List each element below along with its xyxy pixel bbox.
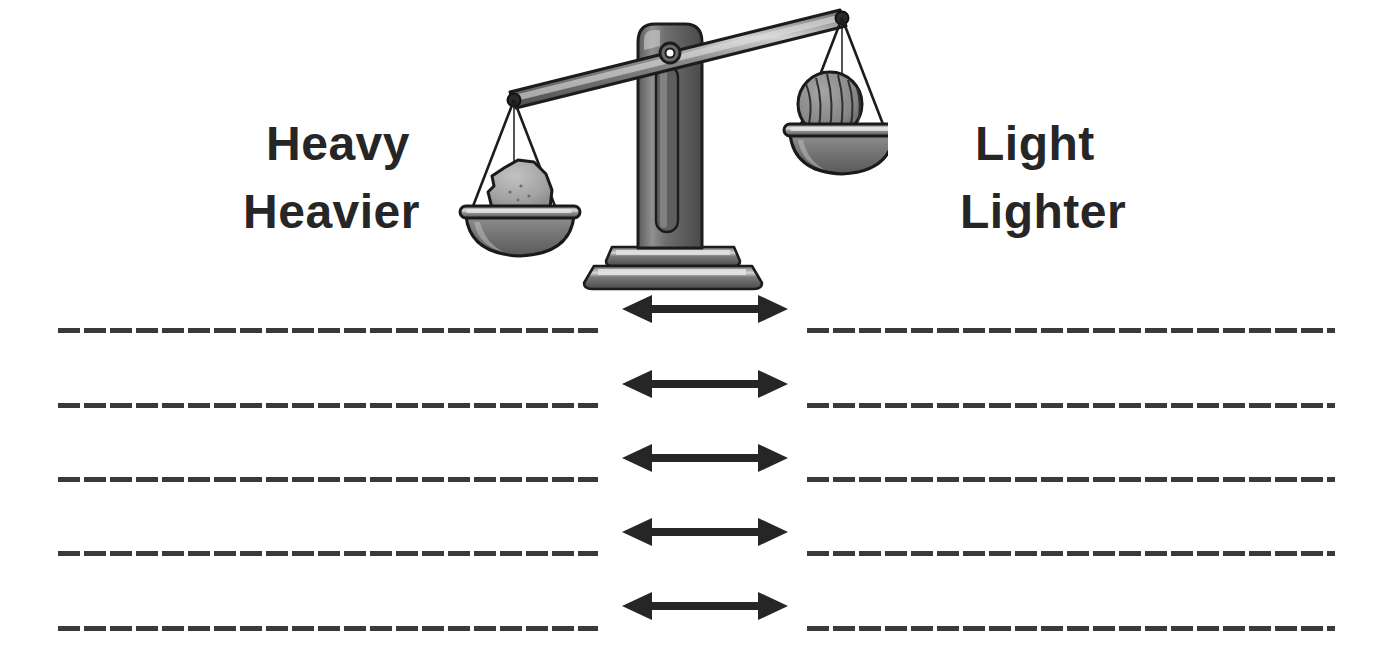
label-heavier: Heavier bbox=[150, 188, 420, 236]
answer-line-right-5[interactable] bbox=[807, 626, 1335, 631]
connector-arrow-3 bbox=[622, 443, 788, 473]
scale-left-pan bbox=[460, 100, 580, 256]
answer-line-left-4[interactable] bbox=[58, 551, 598, 556]
balance-scale-illustration bbox=[448, 0, 888, 292]
connector-arrow-5 bbox=[622, 591, 788, 621]
answer-line-right-2[interactable] bbox=[807, 403, 1335, 408]
scale-right-pan bbox=[784, 18, 888, 174]
label-light: Light bbox=[975, 120, 1235, 168]
scale-pivot-icon bbox=[660, 43, 680, 63]
scale-base-icon bbox=[584, 247, 762, 289]
connector-arrow-1 bbox=[622, 294, 788, 324]
label-lighter: Lighter bbox=[960, 188, 1240, 236]
answer-line-right-3[interactable] bbox=[807, 477, 1335, 482]
answer-line-left-2[interactable] bbox=[58, 403, 598, 408]
answer-line-right-1[interactable] bbox=[807, 328, 1335, 333]
answer-line-left-1[interactable] bbox=[58, 328, 598, 333]
connector-arrow-2 bbox=[622, 369, 788, 399]
answer-line-left-3[interactable] bbox=[58, 477, 598, 482]
answer-line-right-4[interactable] bbox=[807, 551, 1335, 556]
rock-icon bbox=[488, 160, 552, 208]
connector-arrow-4 bbox=[622, 517, 788, 547]
answer-line-left-5[interactable] bbox=[58, 626, 598, 631]
worksheet-page: Heavy Heavier Light Lighter bbox=[0, 0, 1395, 671]
label-heavy: Heavy bbox=[150, 120, 410, 168]
